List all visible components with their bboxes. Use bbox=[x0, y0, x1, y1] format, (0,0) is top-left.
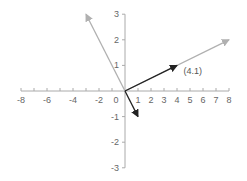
x-tick-label: 5 bbox=[187, 95, 192, 105]
x-tick-label: 8 bbox=[226, 95, 231, 105]
x-tick-label: -4 bbox=[69, 95, 77, 105]
x-tick-label: 1 bbox=[135, 95, 140, 105]
x-tick-label: 7 bbox=[213, 95, 218, 105]
x-tick-label: 2 bbox=[148, 95, 153, 105]
x-tick-label: -6 bbox=[43, 95, 51, 105]
vectors bbox=[86, 14, 229, 116]
vector-annotation: (4.1) bbox=[184, 66, 203, 76]
vector-chart: -8-6-4-212345678321-1-2-30(4.1) bbox=[0, 0, 247, 181]
x-tick-label: 3 bbox=[161, 95, 166, 105]
y-tick-label: 1 bbox=[114, 60, 119, 70]
y-tick-label: 3 bbox=[114, 9, 119, 19]
y-tick-label: 2 bbox=[114, 35, 119, 45]
x-tick-label: 6 bbox=[200, 95, 205, 105]
y-tick-label: -1 bbox=[111, 112, 119, 122]
y-tick-label: -2 bbox=[111, 137, 119, 147]
x-tick-label: 4 bbox=[174, 95, 179, 105]
y-tick-label: -3 bbox=[111, 163, 119, 173]
v-gray-upleft-arrow bbox=[86, 14, 125, 91]
x-tick-label: -2 bbox=[95, 95, 103, 105]
origin-label: 0 bbox=[113, 95, 118, 105]
v-black-41-arrow bbox=[125, 65, 177, 91]
x-tick-label: -8 bbox=[17, 95, 25, 105]
